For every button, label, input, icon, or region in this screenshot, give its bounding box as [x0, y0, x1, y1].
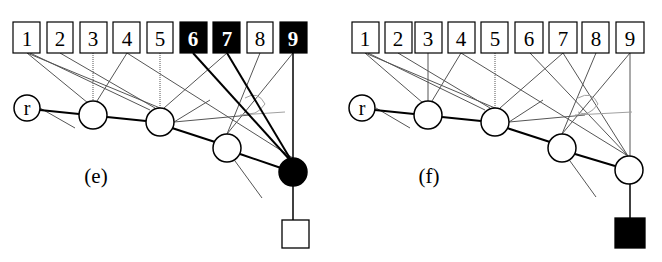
chain-node-4-filled: [279, 158, 307, 186]
box-label: 4: [122, 27, 133, 51]
box-label: 9: [625, 27, 636, 51]
faint-edges-f: [575, 95, 632, 115]
box-label: 9: [288, 27, 299, 51]
diagram-canvas: 1 2 3 4 5 6 7 8 9 r (e): [0, 0, 662, 262]
chain-node-4: [615, 156, 643, 184]
chain-node-3: [548, 134, 576, 162]
box-label: 1: [360, 27, 371, 51]
box-label: 4: [456, 27, 467, 51]
box-label: 6: [524, 27, 535, 51]
chain-node-3: [213, 134, 241, 162]
box-7: 7: [549, 22, 577, 53]
leaf-box: [282, 220, 309, 248]
box-5: 5: [147, 22, 173, 53]
box-label: 7: [222, 27, 233, 51]
chain-node-1: [414, 101, 442, 129]
box-label: 7: [558, 27, 569, 51]
panel-caption-f: (f): [419, 164, 440, 188]
box-label: 8: [591, 27, 602, 51]
panel-f: 1 2 3 4 5 6 7 8 9 r (f): [349, 22, 645, 248]
box-label: 6: [188, 27, 199, 51]
box-row-f: 1 2 3 4 5 6 7 8 9: [352, 22, 644, 53]
box-2: 2: [47, 22, 73, 53]
box-label: 8: [255, 27, 266, 51]
box-3: 3: [415, 22, 442, 53]
box-6: 6: [515, 22, 543, 53]
box-label: 2: [55, 27, 66, 51]
panel-e: 1 2 3 4 5 6 7 8 9 r (e): [13, 22, 309, 248]
root-label: r: [359, 97, 366, 119]
box-9: 9: [616, 22, 644, 53]
box-7-filled: 7: [213, 22, 240, 53]
box-label: 3: [423, 27, 434, 51]
box-label: 1: [22, 27, 33, 51]
box-label: 5: [490, 27, 501, 51]
box-8: 8: [582, 22, 609, 53]
box-1: 1: [13, 22, 40, 53]
box-8: 8: [247, 22, 273, 53]
box-4: 4: [113, 22, 140, 53]
box-label: 5: [155, 27, 166, 51]
box-label: 2: [393, 27, 404, 51]
box-label: 3: [88, 27, 99, 51]
box-3: 3: [80, 22, 107, 53]
leaf-box-filled: [615, 218, 645, 248]
root-label: r: [24, 97, 31, 119]
box-row-e: 1 2 3 4 5 6 7 8 9: [13, 22, 307, 53]
chain-node-2: [146, 108, 174, 136]
box-1: 1: [352, 22, 379, 53]
box-5: 5: [481, 22, 508, 53]
panel-caption-e: (e): [84, 164, 107, 188]
box-6-filled: 6: [180, 22, 207, 53]
box-2: 2: [385, 22, 412, 53]
box-4: 4: [448, 22, 475, 53]
chain-node-1: [79, 101, 107, 129]
box-9-filled: 9: [280, 22, 307, 53]
chain-node-2: [481, 108, 509, 136]
